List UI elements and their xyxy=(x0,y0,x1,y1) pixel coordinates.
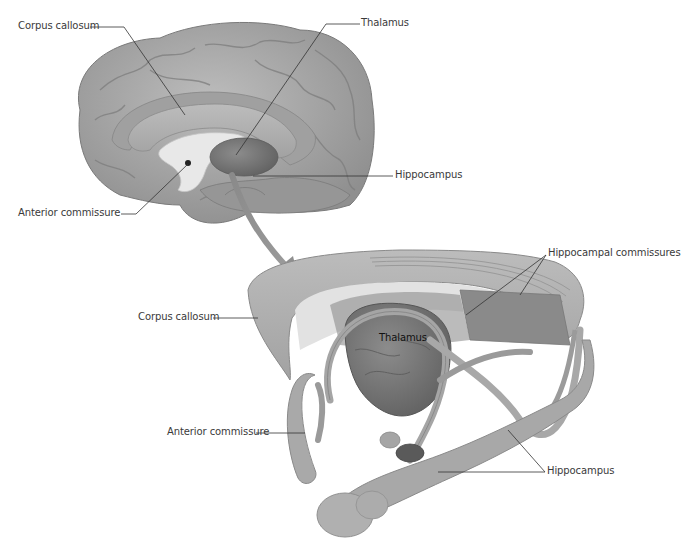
isolated-structures xyxy=(248,250,594,537)
medial-brain xyxy=(78,22,374,223)
label-bottom-corpus-callosum: Corpus callosum xyxy=(138,311,219,322)
label-top-thalamus: Thalamus xyxy=(361,17,409,28)
label-top-corpus-callosum: Corpus callosum xyxy=(18,20,99,31)
label-top-anterior-commissure: Anterior commissure xyxy=(18,207,120,218)
label-bottom-hippocampal-commissures: Hippocampal commissures xyxy=(548,247,681,258)
label-top-hippocampus: Hippocampus xyxy=(395,169,462,180)
label-bottom-anterior-commissure: Anterior commissure xyxy=(167,426,269,437)
label-bottom-hippocampus: Hippocampus xyxy=(547,465,614,476)
label-bottom-thalamus: Thalamus xyxy=(379,332,427,343)
